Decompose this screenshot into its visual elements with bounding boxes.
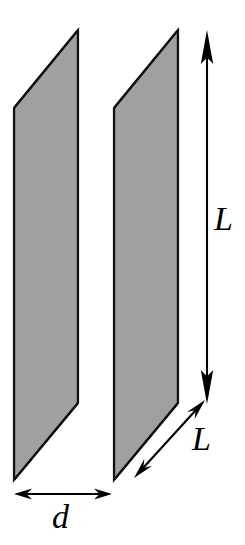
height-dimension-label: L xyxy=(214,202,233,236)
back-plate xyxy=(114,30,178,480)
capacitor-diagram-svg xyxy=(0,0,245,545)
separation-dimension-label: d xyxy=(52,500,69,534)
figure-container: L L d xyxy=(0,0,245,545)
depth-dimension-label: L xyxy=(192,422,211,456)
front-plate xyxy=(14,30,78,480)
